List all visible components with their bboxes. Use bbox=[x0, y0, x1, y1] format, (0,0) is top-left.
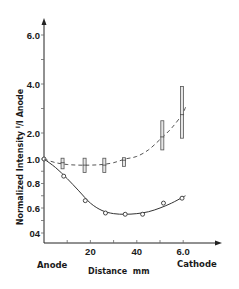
y-axis-arrow bbox=[42, 18, 47, 25]
series-layer bbox=[42, 86, 186, 216]
x-tick-label: 20 bbox=[85, 246, 96, 257]
error-bar bbox=[181, 86, 184, 138]
y-tick-label: 2.0 bbox=[27, 128, 40, 139]
y-tick-label: 4.0 bbox=[27, 79, 40, 90]
solid-circles-line bbox=[44, 159, 186, 214]
data-point bbox=[141, 212, 145, 216]
y-tick-label: 0.6 bbox=[27, 203, 40, 214]
x-tick-label: 40 bbox=[132, 246, 143, 257]
y-axis-label-main: Normalized Intensity bbox=[16, 128, 25, 225]
data-point bbox=[83, 199, 87, 203]
dashed-errorbars-line bbox=[44, 107, 186, 165]
x-end-label-anode: Anode bbox=[37, 260, 68, 270]
x-end-label-cathode: Cathode bbox=[177, 259, 217, 269]
data-point bbox=[123, 212, 127, 216]
error-bar bbox=[61, 158, 64, 169]
data-point bbox=[180, 196, 184, 200]
x-axis-arrow bbox=[215, 241, 222, 246]
x-tick-label: 6.0 bbox=[177, 246, 190, 257]
data-point bbox=[62, 174, 66, 178]
y-tick-label: 1.0 bbox=[27, 154, 40, 165]
data-point bbox=[161, 201, 165, 205]
error-bar bbox=[123, 158, 126, 167]
chart: 040.60.81.02.04.06.020406.0 Normalized I… bbox=[0, 0, 239, 289]
y-tick-label: 0.8 bbox=[27, 178, 40, 189]
data-point bbox=[103, 211, 107, 215]
y-tick-label: 04 bbox=[29, 228, 40, 239]
axes bbox=[42, 18, 223, 246]
series-dashed-errorbars bbox=[44, 86, 186, 172]
x-axis-label: Distance mm bbox=[88, 267, 149, 276]
ticks: 040.60.81.02.04.06.020406.0 bbox=[27, 30, 190, 258]
error-bar bbox=[161, 121, 164, 150]
y-tick-label: 6.0 bbox=[27, 30, 40, 41]
y-axis-label: Normalized Intensity I/I Anode bbox=[14, 88, 25, 225]
y-axis-label-tail: Anode bbox=[16, 88, 25, 120]
